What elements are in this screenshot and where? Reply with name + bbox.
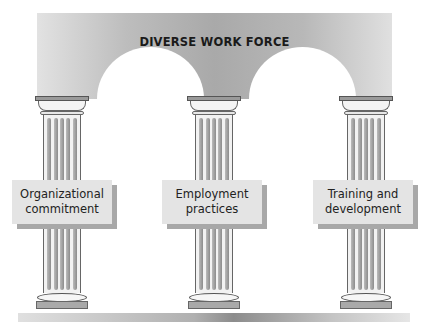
label-training-development: Training and development (313, 180, 413, 224)
column-plinth (188, 301, 240, 309)
capital-echinus (190, 101, 238, 111)
capital-echinus (342, 101, 390, 111)
column-plinth (36, 301, 88, 309)
floor-foundation (18, 313, 410, 322)
arch-roof: DIVERSE WORK FORCE (37, 13, 392, 99)
arch-opening-left (97, 47, 204, 99)
label-employment-practices: Employment practices (162, 180, 262, 224)
diagram-title: DIVERSE WORK FORCE (37, 35, 392, 49)
label-organizational-commitment: Organizational commitment (12, 180, 112, 224)
column-plinth (340, 301, 392, 309)
arch-opening-right (249, 47, 356, 99)
capital-echinus (38, 101, 86, 111)
